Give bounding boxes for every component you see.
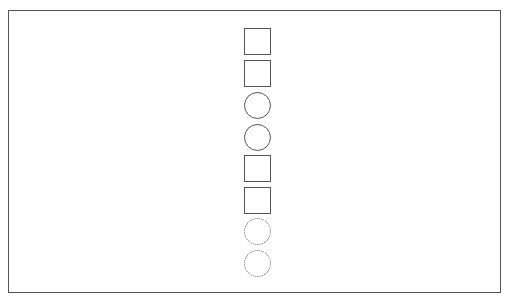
- circle-shape-3: [244, 92, 271, 119]
- square-shape-1: [244, 28, 271, 55]
- square-shape-6: [244, 187, 271, 214]
- square-shape-2: [244, 60, 271, 87]
- square-shape-5: [244, 155, 271, 182]
- circle-shape-4: [244, 124, 271, 151]
- dotted-circle-shape-7: [244, 218, 271, 245]
- dotted-circle-shape-8: [244, 250, 271, 277]
